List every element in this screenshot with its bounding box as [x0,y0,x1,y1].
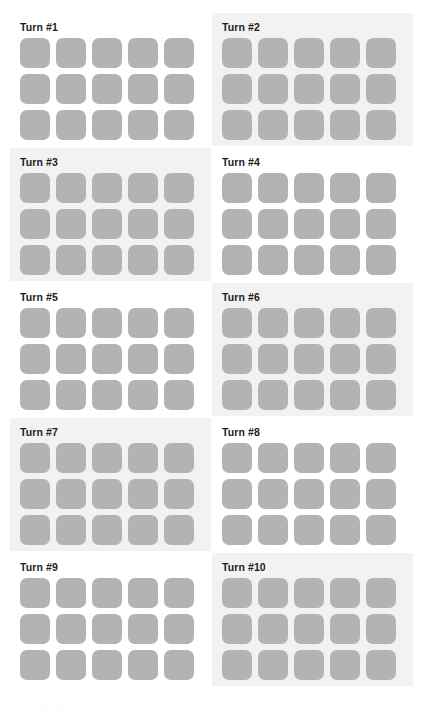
board-tile[interactable] [330,245,360,275]
board-tile[interactable] [366,650,396,680]
board-tile[interactable] [56,650,86,680]
board-tile[interactable] [56,308,86,338]
board-tile[interactable] [222,344,252,374]
board-tile[interactable] [128,479,158,509]
board-tile[interactable] [128,515,158,545]
board-tile[interactable] [258,245,288,275]
board-tile[interactable] [330,173,360,203]
board-tile[interactable] [56,173,86,203]
board-tile[interactable] [366,74,396,104]
board-tile[interactable] [128,344,158,374]
board-tile[interactable] [294,344,324,374]
board-tile[interactable] [128,380,158,410]
board-tile[interactable] [222,515,252,545]
board-tile[interactable] [164,209,194,239]
board-tile[interactable] [330,650,360,680]
board-tile[interactable] [164,515,194,545]
board-tile[interactable] [222,308,252,338]
board-tile[interactable] [294,209,324,239]
board-tile[interactable] [56,614,86,644]
board-tile[interactable] [164,74,194,104]
board-tile[interactable] [258,173,288,203]
board-tile[interactable] [366,38,396,68]
board-tile[interactable] [294,479,324,509]
board-tile[interactable] [222,245,252,275]
board-tile[interactable] [20,443,50,473]
board-tile[interactable] [222,380,252,410]
board-tile[interactable] [258,344,288,374]
board-tile[interactable] [294,578,324,608]
board-tile[interactable] [20,74,50,104]
board-tile[interactable] [164,380,194,410]
board-tile[interactable] [56,38,86,68]
board-tile[interactable] [164,443,194,473]
board-tile[interactable] [20,515,50,545]
board-tile[interactable] [128,614,158,644]
board-tile[interactable] [56,110,86,140]
board-tile[interactable] [222,443,252,473]
board-tile[interactable] [294,650,324,680]
board-tile[interactable] [128,245,158,275]
board-tile[interactable] [92,443,122,473]
board-tile[interactable] [56,515,86,545]
board-tile[interactable] [92,209,122,239]
board-tile[interactable] [330,479,360,509]
board-tile[interactable] [222,650,252,680]
board-tile[interactable] [128,110,158,140]
board-tile[interactable] [330,38,360,68]
board-tile[interactable] [92,344,122,374]
board-tile[interactable] [258,578,288,608]
board-tile[interactable] [222,578,252,608]
board-tile[interactable] [222,173,252,203]
board-tile[interactable] [20,110,50,140]
board-tile[interactable] [20,308,50,338]
board-tile[interactable] [330,110,360,140]
board-tile[interactable] [164,614,194,644]
board-tile[interactable] [294,38,324,68]
board-tile[interactable] [330,209,360,239]
board-tile[interactable] [128,38,158,68]
board-tile[interactable] [294,308,324,338]
board-tile[interactable] [92,110,122,140]
board-tile[interactable] [258,443,288,473]
board-tile[interactable] [222,614,252,644]
board-tile[interactable] [222,74,252,104]
board-tile[interactable] [366,344,396,374]
board-tile[interactable] [258,380,288,410]
board-tile[interactable] [128,173,158,203]
board-tile[interactable] [258,209,288,239]
board-tile[interactable] [164,479,194,509]
board-tile[interactable] [56,479,86,509]
board-tile[interactable] [128,650,158,680]
board-tile[interactable] [330,74,360,104]
board-tile[interactable] [294,74,324,104]
board-tile[interactable] [294,614,324,644]
board-tile[interactable] [366,479,396,509]
board-tile[interactable] [92,74,122,104]
board-tile[interactable] [164,578,194,608]
board-tile[interactable] [92,380,122,410]
board-tile[interactable] [258,650,288,680]
board-tile[interactable] [128,308,158,338]
board-tile[interactable] [258,74,288,104]
board-tile[interactable] [366,245,396,275]
board-tile[interactable] [20,245,50,275]
board-tile[interactable] [330,515,360,545]
board-tile[interactable] [92,479,122,509]
board-tile[interactable] [330,578,360,608]
board-tile[interactable] [56,344,86,374]
board-tile[interactable] [366,380,396,410]
board-tile[interactable] [294,515,324,545]
board-tile[interactable] [128,443,158,473]
board-tile[interactable] [294,110,324,140]
board-tile[interactable] [222,38,252,68]
board-tile[interactable] [92,308,122,338]
board-tile[interactable] [56,578,86,608]
board-tile[interactable] [258,308,288,338]
board-tile[interactable] [366,209,396,239]
board-tile[interactable] [92,38,122,68]
board-tile[interactable] [20,344,50,374]
board-tile[interactable] [164,245,194,275]
board-tile[interactable] [294,380,324,410]
board-tile[interactable] [222,110,252,140]
